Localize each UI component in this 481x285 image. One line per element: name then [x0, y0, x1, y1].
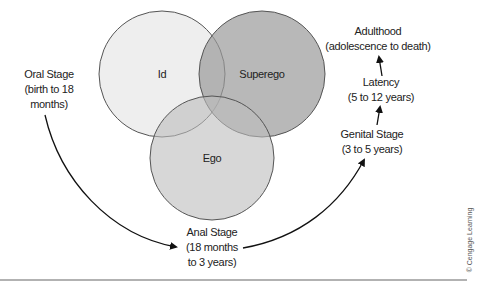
oral-stage: Oral Stage (birth to 18 months) [24, 68, 74, 110]
genital-stage-age: (3 to 5 years) [342, 143, 403, 155]
latency-stage: Latency (5 to 12 years) [348, 76, 414, 103]
latency-stage-title: Latency [363, 76, 400, 88]
adulthood-stage-title: Adulthood [355, 25, 402, 37]
anal-stage-title: Anal Stage [187, 226, 238, 238]
latency-to-adulthood-arrow [379, 57, 382, 76]
anal-stage-age-cont: to 3 years) [188, 256, 237, 268]
adulthood-stage-age: (adolescence to death) [325, 40, 430, 52]
copyright-notice: © Cengage Learning [466, 208, 474, 273]
anal-stage-age: (18 months [186, 241, 239, 253]
ego-label: Ego [203, 152, 222, 164]
genital-stage: Genital Stage (3 to 5 years) [341, 128, 404, 155]
latency-stage-age: (5 to 12 years) [348, 91, 414, 103]
adulthood-stage: Adulthood (adolescence to death) [325, 25, 430, 52]
superego-label: Superego [239, 68, 284, 80]
oral-stage-age-cont: months) [30, 98, 68, 110]
oral-stage-age: (birth to 18 [25, 83, 74, 95]
id-label: Id [158, 68, 167, 80]
oral-stage-title: Oral Stage [24, 68, 74, 80]
anal-stage: Anal Stage (18 months to 3 years) [186, 226, 239, 268]
freud-diagram: Id Superego Ego Oral Stage (birth to 18 … [0, 0, 481, 285]
genital-to-latency-arrow [377, 107, 380, 125]
genital-stage-title: Genital Stage [341, 128, 404, 140]
venn-diagram: Id Superego Ego [99, 11, 325, 220]
